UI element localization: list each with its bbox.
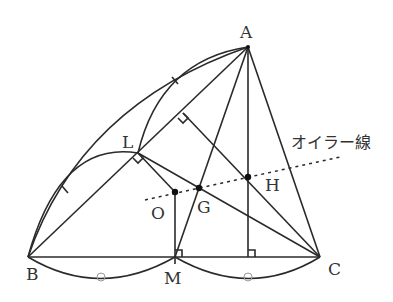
label-m: M — [164, 268, 181, 288]
side-ac — [248, 47, 320, 257]
label-o: O — [151, 203, 165, 223]
euler-line-label: オイラー線 — [291, 133, 371, 152]
label-b: B — [26, 264, 39, 284]
median-am — [175, 47, 248, 257]
arc-bm — [28, 257, 175, 279]
equal-mark-circle — [244, 273, 252, 281]
label-a: A — [239, 22, 253, 42]
equal-mark-circle — [97, 273, 105, 281]
euler-line-diagram: A B C L M O G H オイラー線 — [0, 0, 393, 302]
arc-mc — [175, 257, 320, 279]
right-angle-mark-c-foot — [178, 113, 188, 123]
right-angle-mark-foot — [248, 250, 255, 257]
point-h — [245, 174, 251, 180]
median-cl — [138, 153, 320, 257]
side-ab — [28, 47, 248, 257]
label-h: H — [265, 175, 280, 195]
label-l: L — [122, 132, 133, 152]
tick-mark — [62, 186, 68, 193]
point-a — [246, 45, 250, 49]
label-g: G — [197, 197, 211, 217]
point-g — [196, 185, 202, 191]
point-o — [172, 189, 178, 195]
label-c: C — [328, 259, 341, 279]
perp-ol — [138, 153, 175, 192]
